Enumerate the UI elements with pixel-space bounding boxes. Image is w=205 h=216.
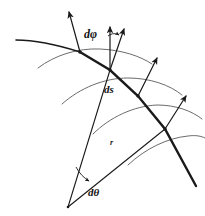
node-3 (136, 94, 139, 97)
normal-arrow-1 (69, 12, 80, 52)
node-2 (108, 68, 111, 71)
radius-line-right (68, 129, 165, 207)
normal-arrow-4 (138, 58, 157, 96)
normal-arrow-5 (165, 96, 186, 129)
label-dtheta: dθ (88, 187, 99, 198)
thick-trajectory-curve-seg2 (80, 52, 196, 186)
thick-trajectory-curve (16, 40, 80, 52)
label-dphi: dφ (84, 28, 97, 40)
node-markers (67, 50, 167, 208)
normal-arrow-3 (110, 29, 124, 70)
figure-root: dφ ds r dθ (0, 0, 205, 216)
wavefront-arc-1 (38, 49, 152, 68)
wavefront-arc-4 (128, 136, 205, 165)
node-4 (163, 127, 166, 130)
label-ds: ds (104, 84, 114, 95)
apex-node (67, 206, 70, 209)
node-1 (78, 50, 81, 53)
geometry-diagram (0, 0, 205, 216)
label-r: r (110, 139, 113, 147)
